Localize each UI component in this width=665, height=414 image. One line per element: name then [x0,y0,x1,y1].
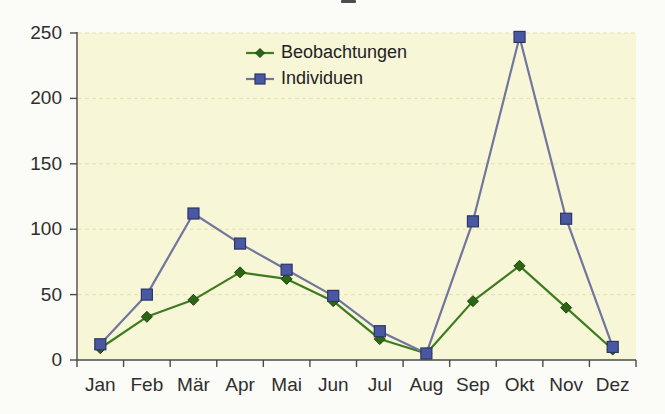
data-point-individuen [328,290,339,301]
data-point-individuen [235,238,246,249]
x-tick-label: Aug [403,374,449,396]
y-tick-label: 250 [0,22,62,44]
legend-marker-diamond-icon [246,46,274,60]
legend-item-beobachtungen: Beobachtungen [246,42,407,63]
data-point-beobachtungen [188,294,199,305]
x-tick-label: Jan [77,374,123,396]
chart-canvas: 050100150200250 JanFebMärAprMaiJunJulAug… [0,0,665,414]
x-tick-label: Nov [543,374,589,396]
data-point-individuen [514,31,525,42]
data-point-individuen [281,264,292,275]
legend-marker-square-icon [246,72,274,86]
data-point-individuen [467,216,478,227]
x-tick-label: Sep [450,374,496,396]
x-tick-label: Okt [497,374,543,396]
y-tick-label: 150 [0,153,62,175]
legend-label-beobachtungen: Beobachtungen [281,42,407,63]
y-tick-label: 200 [0,87,62,109]
data-point-individuen [188,208,199,219]
data-point-beobachtungen [235,267,246,278]
x-tick-label: Feb [124,374,170,396]
series-line-beobachtungen [100,266,612,354]
x-tick-label: Jul [357,374,403,396]
y-tick-label: 100 [0,218,62,240]
x-tick-label: Apr [217,374,263,396]
data-point-individuen [95,339,106,350]
legend-label-individuen: Individuen [281,68,363,89]
x-tick-label: Jun [310,374,356,396]
data-point-individuen [561,213,572,224]
data-point-individuen [421,348,432,359]
data-point-individuen [374,326,385,337]
legend: Beobachtungen Individuen [246,42,407,89]
x-tick-label: Dez [590,374,636,396]
data-point-individuen [141,289,152,300]
x-tick-label: Mär [170,374,216,396]
data-point-individuen [607,341,618,352]
x-tick-label: Mai [264,374,310,396]
y-tick-label: 0 [0,349,62,371]
y-tick-label: 50 [0,284,62,306]
legend-item-individuen: Individuen [246,68,407,89]
